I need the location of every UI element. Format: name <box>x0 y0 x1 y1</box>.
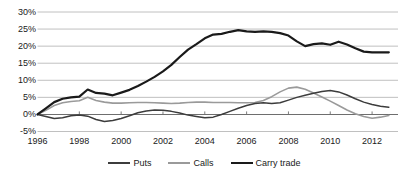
legend-item-carry-trade[interactable]: Carry trade <box>231 158 301 168</box>
x-axis-tick-label: 2002 <box>153 137 173 146</box>
x-axis-tick-label: 2010 <box>320 137 340 146</box>
legend-swatch-icon <box>108 162 130 164</box>
x-axis-tick-label: 1998 <box>69 137 89 146</box>
x-axis: 199619982000200220042006200820102012 <box>0 0 409 171</box>
x-axis-tick-label: 2000 <box>111 137 131 146</box>
legend-item-calls[interactable]: Calls <box>168 158 213 168</box>
x-axis-tick-label: 2004 <box>195 137 215 146</box>
x-axis-tick-label: 2012 <box>362 137 382 146</box>
legend-item-puts[interactable]: Puts <box>108 158 151 168</box>
legend-swatch-icon <box>231 162 253 164</box>
legend-label: Puts <box>133 158 151 168</box>
legend-label: Carry trade <box>256 158 301 168</box>
x-axis-tick-label: 2006 <box>237 137 257 146</box>
chart-legend: PutsCallsCarry trade <box>0 158 409 168</box>
x-axis-tick-label: 2008 <box>278 137 298 146</box>
x-axis-tick-label: 1996 <box>27 137 47 146</box>
legend-label: Calls <box>193 158 213 168</box>
carry-trade-line-chart: 30%25%20%15%10%5%0%-5% 19961998200020022… <box>0 0 409 171</box>
legend-swatch-icon <box>168 162 190 164</box>
